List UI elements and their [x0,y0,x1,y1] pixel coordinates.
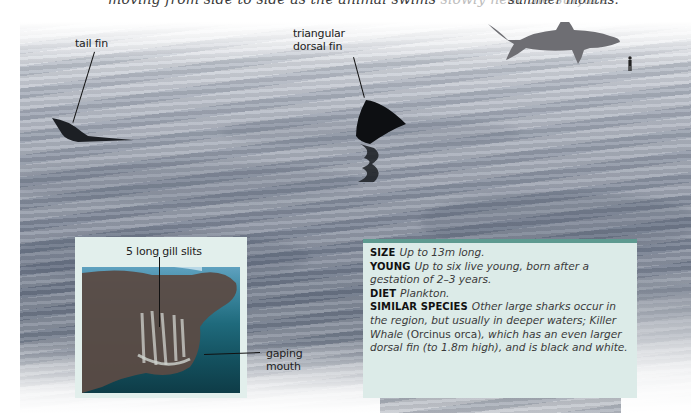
gill-slits-leader-line [159,257,160,327]
mouth-label-line1: gaping [266,347,303,360]
basking-shark-mouth-photo [82,267,240,393]
tail-fin-label: tail fin [75,37,108,50]
info-key: SIZE [370,247,395,258]
info-value-latin: (Orcinus orca) [407,328,482,340]
top-text-visible: moving from side to side as the animal s… [108,0,436,7]
info-young: YOUNGUp to six live young, born after a … [370,260,629,287]
dorsal-fin-label-line1: triangular [293,27,345,40]
dorsal-fin-label: triangular dorsal fin [293,27,345,53]
info-similar-species: SIMILAR SPECIESOther large sharks occur … [370,300,629,354]
dorsal-fin-shape [350,96,430,191]
info-value: Plankton. [400,287,449,299]
shark-head-shape [82,267,240,393]
info-key: SIMILAR SPECIES [370,301,468,312]
top-caption-partial: summer months. [508,0,619,7]
dorsal-fin-label-line2: dorsal fin [293,40,345,53]
tail-fin-shape [48,112,138,144]
info-value: Up to 13m long. [399,246,484,258]
wave-shadow [20,162,360,202]
info-size: SIZEUp to 13m long. [370,246,629,260]
species-info-box: SIZEUp to 13m long. YOUNGUp to six live … [363,239,637,398]
info-key: YOUNG [370,261,411,272]
human-silhouette-icon [626,56,634,72]
mouth-label: gaping mouth [266,347,303,373]
info-key: DIET [370,288,396,299]
inset-photo-card: 5 long gill slits [75,237,247,398]
info-diet: DIETPlankton. [370,287,629,301]
mouth-label-line2: mouth [266,360,303,373]
shark-silhouette-icon [486,22,636,74]
gill-slits-label: 5 long gill slits [126,245,202,258]
